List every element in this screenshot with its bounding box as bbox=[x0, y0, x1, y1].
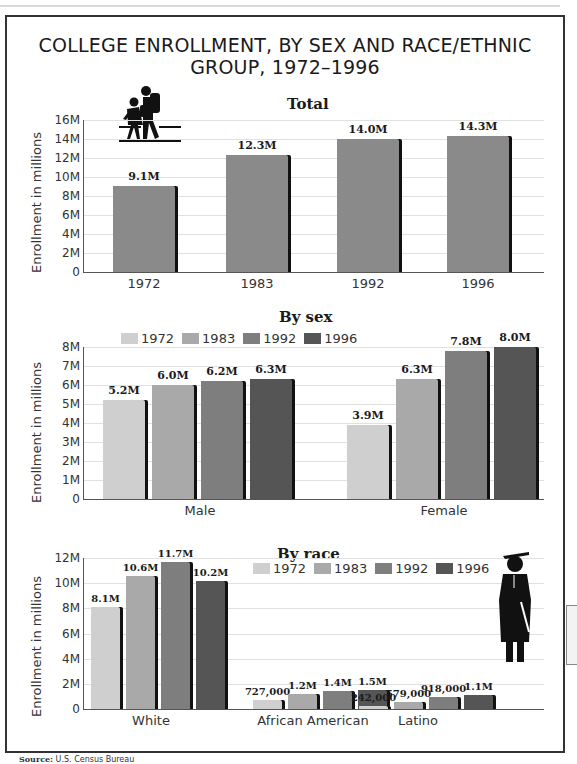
bar-latino-1983 bbox=[394, 702, 423, 709]
race-y-axis-label: Enrollment in millions bbox=[29, 572, 44, 722]
legend-swatch bbox=[121, 333, 138, 344]
legend-label: 1972 bbox=[141, 331, 174, 346]
bar-female-1983 bbox=[396, 379, 438, 499]
bar-value-label: 1.4M bbox=[323, 677, 351, 688]
y-tick-label: 10M bbox=[54, 170, 80, 184]
y-tick-label: 0 bbox=[72, 492, 80, 506]
y-tick-label: 6M bbox=[62, 627, 80, 641]
bar-male-1996 bbox=[250, 379, 292, 499]
bar-african-american-1983 bbox=[288, 694, 317, 709]
y-tick-label: 12M bbox=[54, 551, 80, 565]
bar-male-1992 bbox=[201, 381, 243, 499]
bar-value-label: 1.1M bbox=[464, 681, 492, 692]
bar-white-1992 bbox=[161, 562, 190, 709]
legend-swatch bbox=[243, 333, 260, 344]
bar-latino-1992 bbox=[429, 697, 458, 709]
y-tick-label: 3M bbox=[62, 435, 80, 449]
y-tick-label: 10M bbox=[54, 576, 80, 590]
bar-value-label: 11.7M bbox=[158, 548, 193, 559]
bar-value-label: 918,000 bbox=[421, 683, 466, 694]
x-category-label: Male bbox=[185, 503, 216, 518]
bar-african-american-1992 bbox=[323, 691, 352, 709]
legend-swatch bbox=[182, 333, 199, 344]
y-tick-label: 1M bbox=[62, 473, 80, 487]
y-tick-label: 2M bbox=[62, 246, 80, 260]
total-plot-area: 02M4M6M8M10M12M14M16M9.1M197212.3M198314… bbox=[83, 120, 544, 273]
bar-white-1996 bbox=[196, 581, 225, 709]
y-tick-label: 2M bbox=[62, 454, 80, 468]
x-category-label: Latino bbox=[398, 713, 438, 728]
y-tick-label: 2M bbox=[62, 677, 80, 691]
y-tick-label: 5M bbox=[62, 397, 80, 411]
legend-label: 1992 bbox=[263, 331, 296, 346]
source-note: Source: U.S. Census Bureau bbox=[19, 754, 134, 764]
bar-value-label: 10.2M bbox=[193, 567, 228, 578]
bar-value-label: 9.1M bbox=[128, 170, 159, 183]
y-tick-label: 0 bbox=[72, 702, 80, 716]
x-category-label: 1983 bbox=[240, 276, 273, 291]
y-tick-label: 4M bbox=[62, 652, 80, 666]
bar-value-label: 12.3M bbox=[238, 139, 277, 152]
bar-value-label: 10.6M bbox=[123, 562, 158, 573]
bar-value-label: 14.3M bbox=[459, 120, 498, 133]
legend-item-1983: 1983 bbox=[182, 331, 235, 346]
bar-value-label: 3.9M bbox=[352, 409, 383, 422]
bar-white-1983 bbox=[126, 576, 155, 709]
y-tick-label: 14M bbox=[54, 132, 80, 146]
bar-value-label: 1.5M bbox=[358, 676, 386, 687]
sex-y-axis-label: Enrollment in millions bbox=[29, 358, 44, 508]
legend-swatch bbox=[304, 333, 321, 344]
total-y-axis-label: Enrollment in millions bbox=[29, 128, 44, 278]
bar-total-1972 bbox=[113, 186, 175, 272]
bar-value-label: 6.3M bbox=[255, 363, 286, 376]
source-text: U.S. Census Bureau bbox=[56, 755, 135, 764]
bar-latino-1972 bbox=[359, 706, 388, 709]
y-tick-label: 4M bbox=[62, 416, 80, 430]
x-category-label: African American bbox=[257, 713, 368, 728]
legend-label: 1983 bbox=[202, 331, 235, 346]
gridline bbox=[84, 558, 544, 559]
bar-total-1992 bbox=[337, 139, 399, 272]
x-category-label: 1972 bbox=[127, 276, 160, 291]
graduate-icon bbox=[495, 550, 535, 664]
bar-value-label: 6.0M bbox=[157, 369, 188, 382]
y-tick-label: 8M bbox=[62, 189, 80, 203]
sex-plot-area: 01M2M3M4M5M6M7M8M5.2M6.0M6.2M6.3MMale3.9… bbox=[83, 347, 544, 500]
title-line-1: COLLEGE ENROLLMENT, BY SEX AND RACE/ETHN… bbox=[7, 34, 563, 56]
bar-value-label: 8.0M bbox=[499, 331, 530, 344]
bar-total-1996 bbox=[447, 136, 509, 272]
bar-value-label: 14.0M bbox=[349, 123, 388, 136]
y-tick-label: 12M bbox=[54, 151, 80, 165]
legend-item-1992: 1992 bbox=[243, 331, 296, 346]
total-chart-title: Total bbox=[287, 95, 329, 113]
bar-female-1972 bbox=[347, 425, 389, 499]
race-plot-area: 02M4M6M8M10M12M8.1M10.6M11.7M10.2MWhite7… bbox=[83, 558, 544, 710]
legend-item-1972: 1972 bbox=[121, 331, 174, 346]
bar-male-1972 bbox=[103, 400, 145, 499]
x-category-label: 1996 bbox=[461, 276, 494, 291]
bar-male-1983 bbox=[152, 385, 194, 499]
y-tick-label: 7M bbox=[62, 359, 80, 373]
sex-legend: 1972198319921996 bbox=[121, 331, 357, 346]
legend-item-1996: 1996 bbox=[304, 331, 357, 346]
y-tick-label: 8M bbox=[62, 601, 80, 615]
bar-white-1972 bbox=[91, 607, 120, 709]
title-line-2: GROUP, 1972–1996 bbox=[7, 56, 563, 78]
y-tick-label: 16M bbox=[54, 113, 80, 127]
x-category-label: 1992 bbox=[351, 276, 384, 291]
bar-value-label: 6.2M bbox=[206, 365, 237, 378]
x-category-label: Female bbox=[420, 503, 467, 518]
bar-female-1996 bbox=[494, 347, 536, 499]
bar-latino-1996 bbox=[464, 695, 493, 709]
legend-label: 1996 bbox=[324, 331, 357, 346]
bar-female-1992 bbox=[445, 351, 487, 499]
page-edge-block bbox=[566, 605, 577, 665]
y-tick-label: 6M bbox=[62, 208, 80, 222]
bar-value-label: 5.2M bbox=[108, 384, 139, 397]
bar-value-label: 727,000 bbox=[245, 686, 290, 697]
y-tick-label: 8M bbox=[62, 340, 80, 354]
bar-value-label: 1.2M bbox=[288, 680, 316, 691]
bar-value-label: 7.8M bbox=[450, 335, 481, 348]
bar-african-american-1972 bbox=[253, 700, 282, 709]
y-tick-label: 4M bbox=[62, 227, 80, 241]
